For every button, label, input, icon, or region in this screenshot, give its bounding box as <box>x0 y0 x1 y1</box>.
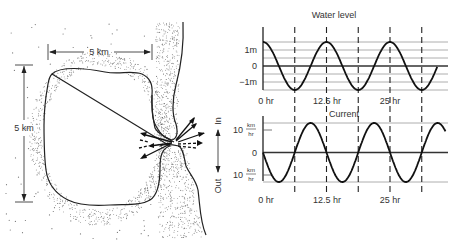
stipple-dot <box>165 121 166 122</box>
stipple-dot <box>35 193 36 194</box>
stipple-dot <box>73 216 74 217</box>
stipple-dot <box>166 224 167 225</box>
stipple-dot <box>169 174 170 175</box>
stipple-dot <box>59 203 60 204</box>
stipple-dot <box>134 74 135 75</box>
stipple-dot <box>126 203 127 204</box>
stipple-dot <box>55 85 56 86</box>
stipple-dot <box>185 205 186 206</box>
stipple-dot <box>175 207 176 208</box>
stipple-dot <box>170 108 171 109</box>
stipple-dot <box>167 64 168 65</box>
stipple-dot <box>182 217 183 218</box>
stipple-dot <box>182 224 183 225</box>
stipple-dot <box>160 141 161 142</box>
stipple-dot <box>48 174 49 175</box>
current-title: Current <box>329 109 360 119</box>
stipple-dot <box>162 164 163 165</box>
stipple-dot <box>166 96 167 97</box>
stipple-dot <box>148 82 149 83</box>
stipple-dot <box>124 214 125 215</box>
water-level-chart: Water level 1m 0 −1m 0 hr 12.5 hr 25 hr <box>239 10 448 106</box>
stipple-dot <box>173 174 174 175</box>
stipple-dot <box>167 222 168 223</box>
out-label: Out <box>213 178 223 193</box>
stipple-dot <box>54 87 55 88</box>
stipple-dot <box>145 85 146 86</box>
stipple-dot <box>179 27 180 28</box>
stipple-dot <box>89 214 90 215</box>
stipple-dot <box>38 116 39 117</box>
stipple-dot <box>34 140 35 141</box>
stipple-dot <box>56 75 57 76</box>
stipple-dot <box>174 128 175 129</box>
stipple-dot <box>150 177 151 178</box>
stipple-dot <box>165 175 166 176</box>
stipple-dot <box>38 47 39 48</box>
stipple-dot <box>144 66 145 67</box>
stipple-dot <box>142 79 143 80</box>
stipple-dot <box>172 108 173 109</box>
stipple-dot <box>157 39 158 40</box>
stipple-dot <box>159 152 160 153</box>
stipple-dot <box>167 85 168 86</box>
stipple-dot <box>185 188 186 189</box>
stipple-dot <box>159 58 160 59</box>
stipple-dot <box>177 61 178 62</box>
stipple-dot <box>178 64 179 65</box>
stipple-dot <box>50 94 51 95</box>
stipple-dot <box>121 220 122 221</box>
stipple-dot <box>180 158 181 159</box>
stipple-dot <box>154 183 155 184</box>
stipple-dot <box>92 58 93 59</box>
svg-text:10: 10 <box>233 170 243 180</box>
stipple-dot <box>121 64 122 65</box>
stipple-dot <box>144 78 145 79</box>
stipple-dot <box>30 156 31 157</box>
stipple-dot <box>108 60 109 61</box>
stipple-dot <box>115 68 116 69</box>
svg-text:10: 10 <box>233 125 243 135</box>
stipple-dot <box>167 57 168 58</box>
stipple-dot <box>153 109 154 110</box>
stipple-dot <box>30 150 31 151</box>
stipple-dot <box>189 228 190 229</box>
stipple-dot <box>192 195 193 196</box>
stipple-dot <box>180 190 181 191</box>
stipple-dot <box>138 78 139 79</box>
stipple-dot <box>36 152 37 153</box>
stipple-dot <box>174 39 175 40</box>
stipple-dot <box>129 199 130 200</box>
stipple-dot <box>184 201 185 202</box>
stipple-dot <box>169 169 170 170</box>
stipple-dot <box>171 170 172 171</box>
stipple-dot <box>37 142 38 143</box>
stipple-dot <box>77 58 78 59</box>
stipple-dot <box>177 169 178 170</box>
stipple-dot <box>162 124 163 125</box>
stipple-dot <box>178 223 179 224</box>
stipple-dot <box>159 116 160 117</box>
stipple-dot <box>174 45 175 46</box>
stipple-dot <box>182 208 183 209</box>
stipple-dot <box>157 98 158 99</box>
stipple-dot <box>142 194 143 195</box>
stipple-dot <box>14 70 15 71</box>
stipple-dot <box>144 200 145 201</box>
stipple-dot <box>162 58 163 59</box>
stipple-dot <box>174 72 175 73</box>
stipple-dot <box>117 232 118 233</box>
stipple-dot <box>151 187 152 188</box>
stipple-dot <box>162 71 163 72</box>
stipple-dot <box>60 72 61 73</box>
stipple-dot <box>173 46 174 47</box>
stipple-dot <box>155 186 156 187</box>
stipple-dot <box>35 163 36 164</box>
stipple-dot <box>160 40 161 41</box>
stipple-dot <box>178 91 179 92</box>
x-tick-label: 25 hr <box>380 96 401 106</box>
stipple-dot <box>73 61 74 62</box>
stipple-dot <box>147 86 148 87</box>
stipple-dot <box>70 75 71 76</box>
stipple-dot <box>54 90 55 91</box>
